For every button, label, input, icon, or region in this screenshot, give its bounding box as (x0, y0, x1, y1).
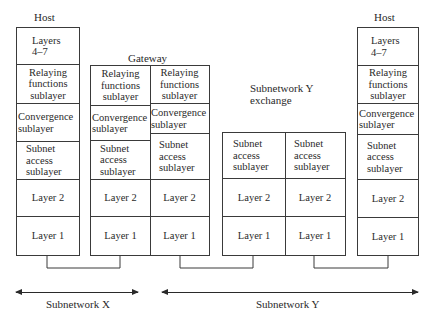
link-host-left-to-gateway (47, 256, 120, 268)
link-connectors (0, 0, 432, 320)
arrowhead-left-icon (15, 289, 22, 295)
subnetwork-x-label: Subnetwork X (46, 298, 110, 310)
arrowhead-right-icon (412, 289, 419, 295)
subnetwork-x-span-arrow (16, 292, 138, 293)
link-gateway-to-exchange (180, 256, 253, 268)
subnetwork-y-label: Subnetwork Y (256, 298, 319, 310)
arrowhead-right-icon (132, 289, 139, 295)
subnetwork-y-span-arrow (162, 292, 418, 293)
link-exchange-to-host-right (314, 256, 388, 268)
arrowhead-left-icon (161, 289, 168, 295)
